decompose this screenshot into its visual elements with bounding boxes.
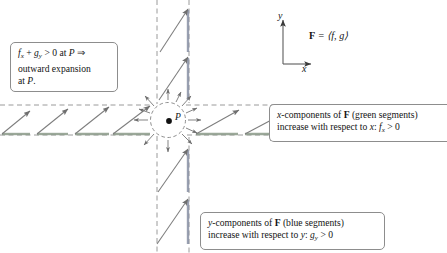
components-of: -components of — [281, 109, 343, 120]
divergence-figure: y x F = ⟨f, g⟩ P fx + gy > 0 at P ⇒ outw… — [0, 0, 447, 253]
callout-x-components: x-components of F (green segments) incre… — [269, 104, 447, 142]
callout-y-line1: y-components of F (blue segments) — [208, 217, 378, 229]
blue-segments-note: (blue segments) — [281, 217, 344, 228]
increase-text: increase with respect to — [277, 121, 370, 132]
callout-divergence-line1: fx + gy > 0 at P ⇒ — [18, 47, 111, 63]
inequality-at: > 0 at — [42, 47, 69, 58]
green-segments-note: (green segments) — [350, 109, 418, 120]
implies-symbol: ⇒ — [75, 47, 85, 58]
callout-divergence: fx + gy > 0 at P ⇒ outward expansion at … — [10, 42, 118, 92]
callout-divergence-line3: at P. — [18, 75, 111, 87]
axis-label-y: y — [278, 10, 282, 21]
callout-x-line1: x-components of F (green segments) — [277, 109, 441, 121]
callout-x-line2: increase with respect to x: fx > 0 — [277, 121, 441, 137]
gt-zero-2: > 0 — [318, 229, 333, 240]
increase-text-2: increase with respect to — [208, 229, 301, 240]
callout-y-line2: increase with respect to y: gy > 0 — [208, 229, 378, 245]
field-equation-components: = ⟨f, g⟩ — [315, 30, 348, 41]
period: . — [33, 75, 35, 86]
at-word: at — [18, 75, 27, 86]
plus-operator: + — [24, 47, 34, 58]
axis-label-x: x — [302, 63, 306, 74]
point-P-dot — [166, 118, 172, 124]
gt-zero: > 0 — [385, 121, 400, 132]
field-equation: F = ⟨f, g⟩ — [309, 30, 348, 41]
callout-divergence-line2: outward expansion — [18, 63, 111, 75]
axes-legend — [283, 20, 311, 64]
components-of-2: -components of — [212, 217, 274, 228]
callout-y-components: y-components of F (blue segments) increa… — [200, 212, 385, 250]
point-P-label: P — [175, 111, 181, 122]
